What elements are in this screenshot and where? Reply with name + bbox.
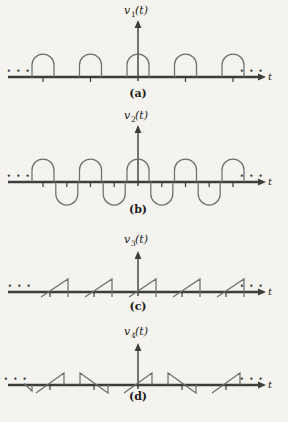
ellipsis-right: • • • [240, 67, 265, 75]
panel-b: • • • • • • v 2 (t) t (b) [0, 105, 288, 217]
v-label-base: v [124, 4, 131, 17]
v-label-base: v [124, 233, 131, 246]
t-axis-label: t [268, 176, 273, 187]
t-axis-label: t [268, 379, 273, 390]
panel-a: • • • • • • v 1 (t) t (a) [0, 0, 288, 105]
ellipsis-right: • • • [240, 172, 265, 180]
v-label-argument: (t) [135, 4, 148, 17]
panel-d: • • • • • • v 4 (t) t (d) [0, 313, 288, 422]
vertical-axis-arrow-icon [135, 251, 142, 259]
waveform-sawtooth [41, 279, 244, 297]
ellipsis-left: • • • [7, 67, 32, 75]
v-label-argument: (t) [135, 109, 148, 122]
panel-caption: (a) [129, 87, 147, 100]
waveform-figure: • • • • • • v 1 (t) t (a) • • • • • • v … [0, 0, 288, 422]
ellipsis-left: • • • [4, 375, 29, 383]
panel-c: • • • • • • v 3 (t) t (c) [0, 217, 288, 313]
vertical-axis-arrow-icon [135, 20, 142, 28]
t-axis-label: t [268, 286, 273, 297]
v-label-base: v [124, 109, 131, 122]
vertical-axis-arrow-icon [135, 125, 142, 133]
t-axis-label: t [268, 71, 273, 82]
panel-caption: (d) [129, 390, 147, 403]
panel-caption: (c) [129, 300, 146, 313]
vertical-axis-arrow-icon [135, 343, 142, 351]
ellipsis-right: • • • [240, 282, 265, 290]
v-label-argument: (t) [135, 325, 148, 338]
ellipsis-right: • • • [240, 375, 265, 383]
ellipsis-left: • • • [8, 282, 33, 290]
ellipsis-left: • • • [7, 172, 32, 180]
v-label-argument: (t) [135, 233, 148, 246]
panel-caption: (b) [129, 203, 147, 216]
v-label-base: v [124, 325, 131, 338]
